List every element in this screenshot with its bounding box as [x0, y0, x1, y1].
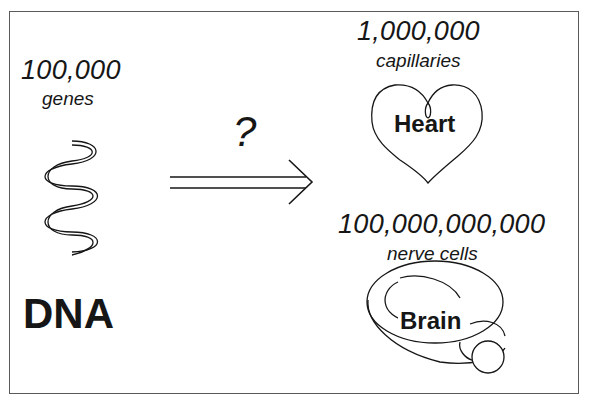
dna-helix-icon	[45, 141, 98, 255]
heart-label: Heart	[394, 110, 455, 138]
gene-unit-label: genes	[42, 88, 94, 110]
dna-label: DNA	[23, 290, 114, 338]
nerve-cell-count: 100,000,000,000	[338, 209, 545, 240]
gene-count: 100,000	[21, 55, 121, 86]
capillary-unit-label: capillaries	[376, 50, 460, 72]
double-arrow-right-icon	[170, 160, 312, 204]
capillary-count: 1,000,000	[357, 16, 480, 47]
question-mark: ?	[233, 108, 256, 156]
nerve-cell-unit-label: nerve cells	[387, 243, 478, 265]
brain-label: Brain	[398, 307, 463, 335]
